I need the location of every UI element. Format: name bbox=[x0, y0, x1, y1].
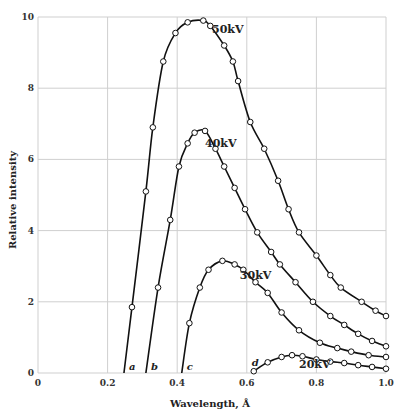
data-point-marker bbox=[221, 164, 227, 170]
y-tick-label: 8 bbox=[28, 83, 34, 93]
y-axis-label: Relative intensity bbox=[7, 150, 18, 249]
data-point-marker bbox=[383, 354, 389, 360]
data-point-marker bbox=[341, 322, 347, 328]
cutoff-letter: b bbox=[151, 361, 158, 372]
x-tick-label: 0 bbox=[35, 378, 41, 388]
x-tick-label: 0.8 bbox=[309, 378, 325, 388]
x-tick-label: 0.6 bbox=[239, 378, 255, 388]
curve-label: 30kV bbox=[240, 269, 272, 282]
x-tick-label: 0.2 bbox=[100, 378, 116, 388]
data-point-marker bbox=[143, 189, 149, 195]
x-axis-label: Wavelength, Å bbox=[169, 398, 250, 410]
data-point-marker bbox=[369, 338, 375, 344]
curves: 50kVa40kVb30kVc20kVd bbox=[124, 18, 389, 374]
curve-label: 50kV bbox=[212, 23, 244, 36]
series-40kv: 40kVb bbox=[146, 128, 389, 373]
data-point-marker bbox=[230, 59, 236, 65]
data-point-marker bbox=[232, 262, 238, 268]
data-point-marker bbox=[383, 313, 389, 319]
data-point-marker bbox=[167, 217, 173, 223]
y-tick-label: 0 bbox=[28, 368, 34, 378]
y-tick-label: 4 bbox=[28, 226, 34, 236]
chart: 00.20.40.60.81.00246810 50kVa40kVb30kVc2… bbox=[0, 0, 402, 414]
data-point-marker bbox=[192, 130, 198, 136]
data-point-marker bbox=[383, 366, 389, 372]
data-point-marker bbox=[268, 249, 274, 255]
data-point-marker bbox=[369, 364, 375, 370]
data-point-marker bbox=[187, 320, 193, 326]
data-point-marker bbox=[366, 352, 372, 358]
data-point-marker bbox=[334, 345, 340, 351]
curve-label: 20kV bbox=[299, 358, 331, 371]
data-point-marker bbox=[150, 125, 156, 131]
x-tick-label: 1.0 bbox=[378, 378, 394, 388]
cutoff-letter: d bbox=[252, 357, 259, 368]
data-point-marker bbox=[265, 290, 271, 296]
data-point-marker bbox=[197, 285, 203, 291]
data-point-marker bbox=[328, 313, 334, 319]
data-point-marker bbox=[317, 340, 323, 346]
y-tick-label: 6 bbox=[28, 154, 34, 164]
data-point-marker bbox=[220, 258, 226, 264]
data-point-marker bbox=[355, 362, 361, 368]
data-point-marker bbox=[328, 272, 334, 278]
data-point-marker bbox=[359, 299, 365, 305]
data-point-marker bbox=[176, 164, 182, 170]
data-point-marker bbox=[355, 331, 361, 337]
data-point-marker bbox=[341, 360, 347, 366]
data-point-marker bbox=[289, 352, 295, 358]
x-tick-label: 0.4 bbox=[169, 378, 185, 388]
data-point-marker bbox=[129, 304, 135, 310]
data-point-marker bbox=[247, 119, 253, 125]
data-point-marker bbox=[338, 285, 344, 291]
data-point-marker bbox=[185, 141, 191, 147]
data-point-marker bbox=[296, 230, 302, 236]
data-point-marker bbox=[373, 308, 379, 314]
data-point-marker bbox=[173, 30, 179, 36]
data-point-marker bbox=[279, 354, 285, 360]
data-point-marker bbox=[277, 262, 283, 268]
data-point-marker bbox=[251, 368, 257, 374]
data-point-marker bbox=[348, 349, 354, 355]
data-point-marker bbox=[310, 299, 316, 305]
cutoff-letter: c bbox=[187, 361, 193, 372]
data-point-marker bbox=[296, 327, 302, 333]
data-point-marker bbox=[201, 18, 207, 24]
data-point-marker bbox=[155, 285, 161, 291]
curve-label: 40kV bbox=[205, 137, 237, 150]
data-point-marker bbox=[279, 310, 285, 316]
y-tick-label: 10 bbox=[21, 12, 34, 22]
data-point-marker bbox=[202, 128, 208, 134]
data-point-marker bbox=[261, 146, 267, 152]
data-point-marker bbox=[275, 178, 281, 184]
data-point-marker bbox=[383, 344, 389, 350]
data-point-marker bbox=[293, 279, 299, 285]
data-point-marker bbox=[254, 230, 260, 236]
data-point-marker bbox=[185, 20, 191, 26]
cutoff-letter: a bbox=[129, 361, 135, 372]
series-50kv: 50kVa bbox=[124, 18, 389, 373]
data-point-marker bbox=[232, 185, 238, 191]
curve-line bbox=[124, 20, 386, 373]
grid: 00.20.40.60.81.00246810 bbox=[21, 12, 393, 388]
data-point-marker bbox=[235, 78, 241, 84]
data-point-marker bbox=[265, 360, 271, 366]
data-point-marker bbox=[286, 206, 292, 212]
data-point-marker bbox=[160, 59, 166, 65]
data-point-marker bbox=[242, 206, 248, 212]
y-tick-label: 2 bbox=[28, 297, 34, 307]
data-point-marker bbox=[206, 267, 212, 273]
data-point-marker bbox=[314, 253, 320, 259]
data-point-marker bbox=[221, 43, 227, 49]
